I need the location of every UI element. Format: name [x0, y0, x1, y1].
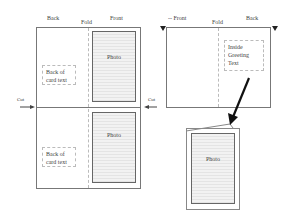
card-fold-edge — [186, 124, 230, 131]
cut-arrow-left-icon — [20, 105, 35, 109]
cut-arrow-right-icon — [144, 105, 157, 109]
placement-arrow-icon — [228, 78, 249, 125]
triangle-marker-left-icon — [160, 26, 166, 31]
arrows-overlay — [0, 0, 294, 215]
triangle-marker-right-icon — [272, 26, 278, 31]
